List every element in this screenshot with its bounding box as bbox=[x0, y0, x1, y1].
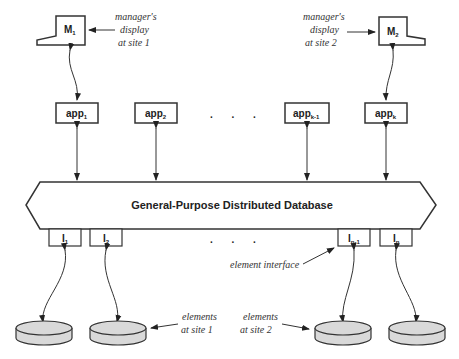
element-disk-site1-a bbox=[16, 321, 72, 345]
interface-box-2: I2 bbox=[90, 229, 122, 246]
interface-box-n: In bbox=[380, 229, 412, 246]
manager-display-site-2: M2 bbox=[379, 17, 425, 45]
manager-display-annotation-site-1: manager's display at site 1 bbox=[115, 11, 159, 48]
elements-site-2-arrow bbox=[282, 324, 309, 329]
m1-app1-link bbox=[69, 50, 77, 100]
element-disk-site2-a bbox=[315, 321, 371, 345]
in-element-link bbox=[396, 250, 417, 322]
m2-appk-link bbox=[386, 50, 393, 100]
element-disk-site2-b bbox=[389, 321, 445, 345]
distributed-database-diagram: M1 manager's display at site 1 M2 manage… bbox=[0, 0, 459, 359]
svg-text:General-Purpose Distributed Da: General-Purpose Distributed Database bbox=[131, 199, 333, 211]
app-box-k-1: appk-1 bbox=[285, 103, 329, 123]
i2-element-link bbox=[105, 250, 118, 322]
elements-site-2-annotation: elements at site 2 bbox=[240, 311, 281, 335]
app-box-2: app2 bbox=[135, 103, 177, 123]
interface-box-1: I1 bbox=[49, 229, 81, 246]
app-ellipsis: . . . bbox=[210, 109, 264, 120]
element-interface-arrow bbox=[303, 248, 334, 264]
app-box-1: app1 bbox=[56, 103, 98, 123]
element-disk-site1-b bbox=[90, 321, 146, 345]
elements-site-1-arrow bbox=[151, 324, 178, 328]
element-interface-annotation: element interface bbox=[230, 259, 300, 270]
i1-element-link bbox=[43, 250, 66, 322]
interface-box-n-1: In-1 bbox=[338, 229, 370, 246]
manager-display-site-1: M1 bbox=[37, 16, 85, 45]
distributed-database: General-Purpose Distributed Database bbox=[26, 182, 436, 229]
elements-site-1-annotation: elements at site 1 bbox=[181, 311, 220, 335]
app-box-k: appk bbox=[365, 103, 407, 123]
interface-ellipsis: . . . bbox=[210, 234, 264, 245]
in1-element-link bbox=[343, 250, 355, 322]
manager-display-annotation-site-2: manager's display at site 2 bbox=[303, 11, 347, 48]
